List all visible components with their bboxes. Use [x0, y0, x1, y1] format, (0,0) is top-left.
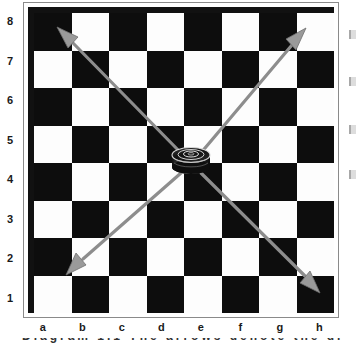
clipped-right-edge-text: [349, 30, 357, 200]
square-g8[interactable]: [259, 13, 297, 51]
square-b7[interactable]: [72, 51, 110, 89]
square-f1[interactable]: [222, 276, 260, 314]
square-e1[interactable]: [184, 276, 222, 314]
square-b2[interactable]: [72, 238, 110, 276]
rank-label-4: 4: [0, 160, 20, 200]
square-e8[interactable]: [184, 13, 222, 51]
square-f4[interactable]: [222, 163, 260, 201]
square-d2[interactable]: [147, 238, 185, 276]
square-a1[interactable]: [34, 276, 72, 314]
square-a3[interactable]: [34, 201, 72, 239]
square-f2[interactable]: [222, 238, 260, 276]
square-c3[interactable]: [109, 201, 147, 239]
rank-label-5: 5: [0, 121, 20, 161]
board-grid: [34, 13, 334, 313]
square-b1[interactable]: [72, 276, 110, 314]
clipped-caption-text: Diagram 1.1 The arrows denote the direct…: [22, 338, 342, 342]
file-label-c: c: [102, 319, 142, 335]
rank-label-column: 8 7 6 5 4 3 2 1: [0, 2, 22, 318]
square-h1[interactable]: [297, 276, 335, 314]
file-label-b: b: [63, 319, 103, 335]
square-g7[interactable]: [259, 51, 297, 89]
square-d1[interactable]: [147, 276, 185, 314]
square-c5[interactable]: [109, 126, 147, 164]
square-h4[interactable]: [297, 163, 335, 201]
board-inner-border: [28, 7, 334, 313]
file-label-h: h: [300, 319, 340, 335]
square-f5[interactable]: [222, 126, 260, 164]
square-c4[interactable]: [109, 163, 147, 201]
file-label-d: d: [142, 319, 182, 335]
edge-mark: [349, 77, 356, 86]
chessboard-figure: 8 7 6 5 4 3 2 1: [0, 0, 357, 347]
square-b6[interactable]: [72, 88, 110, 126]
edge-mark: [349, 30, 356, 39]
square-d5[interactable]: [147, 126, 185, 164]
square-d3[interactable]: [147, 201, 185, 239]
square-e7[interactable]: [184, 51, 222, 89]
square-d8[interactable]: [147, 13, 185, 51]
square-e5[interactable]: [184, 126, 222, 164]
square-h7[interactable]: [297, 51, 335, 89]
square-h3[interactable]: [297, 201, 335, 239]
file-label-g: g: [260, 319, 300, 335]
rank-label-8: 8: [0, 2, 20, 42]
rank-label-7: 7: [0, 42, 20, 82]
rank-label-3: 3: [0, 200, 20, 240]
file-label-a: a: [23, 319, 63, 335]
square-b8[interactable]: [72, 13, 110, 51]
square-e2[interactable]: [184, 238, 222, 276]
square-b3[interactable]: [72, 201, 110, 239]
square-h6[interactable]: [297, 88, 335, 126]
square-d7[interactable]: [147, 51, 185, 89]
square-a5[interactable]: [34, 126, 72, 164]
square-b4[interactable]: [72, 163, 110, 201]
square-h2[interactable]: [297, 238, 335, 276]
square-g2[interactable]: [259, 238, 297, 276]
square-a6[interactable]: [34, 88, 72, 126]
rank-label-2: 2: [0, 239, 20, 279]
square-g3[interactable]: [259, 201, 297, 239]
square-a8[interactable]: [34, 13, 72, 51]
rank-label-6: 6: [0, 81, 20, 121]
clipped-caption: Diagram 1.1 The arrows denote the direct…: [22, 338, 342, 347]
square-e4[interactable]: [184, 163, 222, 201]
file-label-row: a b c d e f g h: [23, 319, 339, 335]
file-label-f: f: [221, 319, 261, 335]
square-a7[interactable]: [34, 51, 72, 89]
square-f8[interactable]: [222, 13, 260, 51]
square-d6[interactable]: [147, 88, 185, 126]
edge-mark: [349, 125, 356, 134]
square-c6[interactable]: [109, 88, 147, 126]
file-label-e: e: [181, 319, 221, 335]
square-c8[interactable]: [109, 13, 147, 51]
square-g5[interactable]: [259, 126, 297, 164]
square-f6[interactable]: [222, 88, 260, 126]
square-c7[interactable]: [109, 51, 147, 89]
square-h5[interactable]: [297, 126, 335, 164]
square-f3[interactable]: [222, 201, 260, 239]
rank-label-1: 1: [0, 279, 20, 319]
square-b5[interactable]: [72, 126, 110, 164]
square-g4[interactable]: [259, 163, 297, 201]
square-e6[interactable]: [184, 88, 222, 126]
square-a4[interactable]: [34, 163, 72, 201]
square-c1[interactable]: [109, 276, 147, 314]
square-a2[interactable]: [34, 238, 72, 276]
square-g6[interactable]: [259, 88, 297, 126]
square-c2[interactable]: [109, 238, 147, 276]
square-f7[interactable]: [222, 51, 260, 89]
square-d4[interactable]: [147, 163, 185, 201]
board-frame: [23, 2, 339, 318]
square-g1[interactable]: [259, 276, 297, 314]
square-e3[interactable]: [184, 201, 222, 239]
square-h8[interactable]: [297, 13, 335, 51]
edge-mark: [349, 170, 356, 179]
